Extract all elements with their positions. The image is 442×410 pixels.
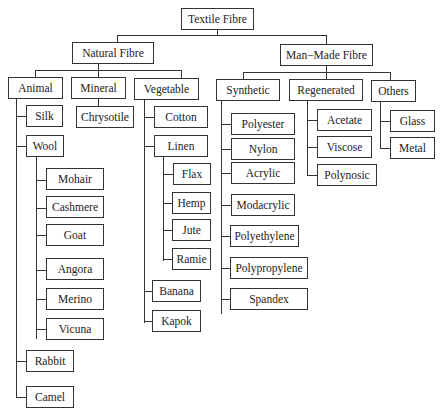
node-metal: Metal <box>390 137 435 159</box>
connector <box>36 180 46 181</box>
node-acrylic: Acrylic <box>231 162 295 184</box>
node-viscose: Viscose <box>317 136 372 158</box>
textile-fibre-diagram: Textile Fibre Natural Fibre Man−Made Fib… <box>0 0 442 410</box>
connector <box>144 321 152 322</box>
connector <box>307 101 308 176</box>
node-polyethylene: Polyethylene <box>230 225 299 247</box>
node-jute: Jute <box>172 219 211 241</box>
node-chrysotile: Chrysotile <box>76 106 134 128</box>
connector <box>380 102 381 149</box>
connector <box>36 157 37 339</box>
node-others: Others <box>371 80 416 102</box>
connector <box>221 173 231 174</box>
connector <box>16 146 26 147</box>
connector <box>390 72 391 80</box>
connector <box>144 117 154 118</box>
node-rabbit: Rabbit <box>26 350 74 372</box>
connector <box>16 98 17 398</box>
connector <box>307 147 317 148</box>
connector <box>144 146 154 147</box>
node-banana: Banana <box>152 280 201 302</box>
node-mineral: Mineral <box>71 77 126 99</box>
node-glass: Glass <box>390 110 435 132</box>
connector <box>221 100 222 314</box>
connector <box>380 148 390 149</box>
connector <box>36 270 46 271</box>
node-merino: Merino <box>46 288 104 310</box>
connector <box>221 205 231 206</box>
connector <box>36 208 46 209</box>
node-cotton: Cotton <box>154 106 208 128</box>
node-kapok: Kapok <box>152 310 201 332</box>
node-animal: Animal <box>8 77 63 99</box>
node-spandex: Spandex <box>230 288 308 310</box>
node-goat: Goat <box>46 224 104 246</box>
node-polynosic: Polynosic <box>317 164 377 186</box>
node-textile-fibre: Textile Fibre <box>181 8 254 30</box>
node-acetate: Acetate <box>317 109 372 131</box>
node-nylon: Nylon <box>231 138 295 160</box>
connector <box>117 35 327 36</box>
connector <box>144 98 145 323</box>
node-natural-fibre: Natural Fibre <box>72 42 154 64</box>
node-regenerated: Regenerated <box>289 79 363 101</box>
connector <box>35 70 181 71</box>
node-wool: Wool <box>26 135 64 157</box>
node-polyester: Polyester <box>231 113 295 135</box>
node-vegetable: Vegetable <box>134 78 199 100</box>
node-flax: Flax <box>173 163 211 185</box>
node-vicuna: Vicuna <box>46 318 104 340</box>
node-mohair: Mohair <box>46 168 104 190</box>
node-silk: Silk <box>26 105 63 127</box>
node-man-made-fibre: Man−Made Fibre <box>280 44 373 66</box>
connector <box>144 291 152 292</box>
connector <box>16 397 26 398</box>
connector <box>307 120 317 121</box>
connector <box>16 361 26 362</box>
node-linen: Linen <box>154 135 208 157</box>
connector <box>16 116 26 117</box>
connector <box>163 157 164 261</box>
connector <box>221 149 231 150</box>
node-hemp: Hemp <box>172 192 211 214</box>
node-angora: Angora <box>46 258 104 280</box>
connector <box>181 70 182 78</box>
connector <box>221 124 231 125</box>
connector <box>307 175 317 176</box>
node-cashmere: Cashmere <box>46 196 104 218</box>
connector <box>380 121 390 122</box>
connector <box>36 299 46 300</box>
connector <box>36 329 46 330</box>
connector <box>163 174 173 175</box>
node-polypropylene: Polypropylene <box>230 257 308 279</box>
node-camel: Camel <box>26 386 74 408</box>
node-modacrylic: Modacrylic <box>231 194 295 216</box>
node-synthetic: Synthetic <box>216 79 280 101</box>
connector <box>36 235 46 236</box>
connector <box>243 72 390 73</box>
node-ramie: Ramie <box>172 248 211 270</box>
